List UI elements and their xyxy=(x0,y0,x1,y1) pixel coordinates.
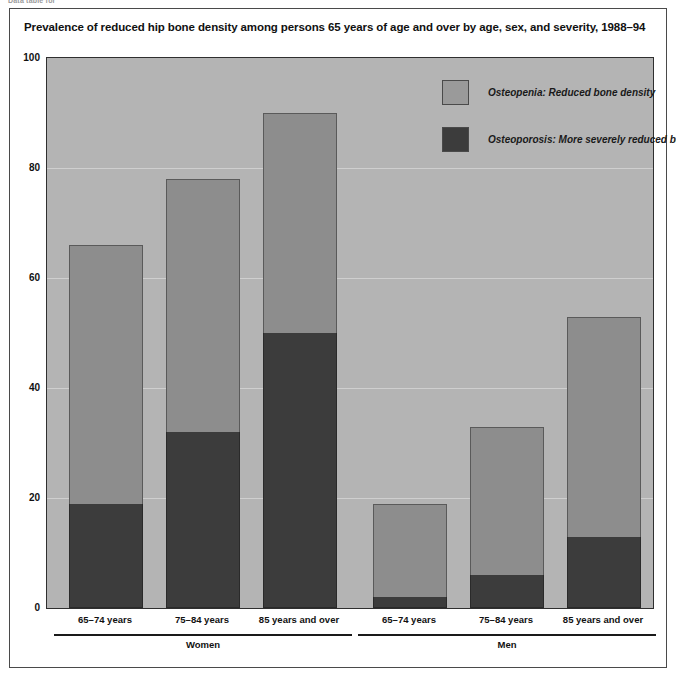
bar-segment-osteoporosis xyxy=(470,575,544,608)
legend-swatch-icon-osteoporosis xyxy=(442,127,469,152)
bar-segment-osteoporosis xyxy=(263,333,337,608)
page-header-scrap: Data table for xyxy=(8,0,56,4)
x-tick-men-85-over: 85 years and over xyxy=(550,614,656,625)
x-tick-women-85-over: 85 years and over xyxy=(246,614,352,625)
bar-segment-osteopenia xyxy=(373,504,447,598)
x-tick-men-65-74: 65–74 years xyxy=(356,614,462,625)
x-tick-women-65-74: 65–74 years xyxy=(52,614,158,625)
legend-item-osteopenia: Osteopenia: Reduced bone density xyxy=(442,80,676,105)
x-axis: 65–74 years 75–84 years 85 years and ove… xyxy=(46,612,654,676)
legend-swatch-icon-osteopenia xyxy=(442,80,469,105)
bar-segment-osteoporosis xyxy=(373,597,447,608)
page-title: Prevalence of reduced hip bone density a… xyxy=(24,21,645,33)
legend: Osteopenia: Reduced bone density Osteopo… xyxy=(442,80,676,174)
bar-segment-osteoporosis xyxy=(567,537,641,609)
bar-men-75-84[interactable] xyxy=(470,427,544,609)
bar-segment-osteopenia xyxy=(263,113,337,333)
x-tick-men-75-84: 75–84 years xyxy=(453,614,559,625)
bar-segment-osteopenia xyxy=(166,179,240,432)
bar-women-75-84[interactable] xyxy=(166,179,240,608)
bar-men-85-over[interactable] xyxy=(567,317,641,609)
group-rule-women xyxy=(54,634,352,636)
bar-segment-osteopenia xyxy=(69,245,143,504)
bar-women-65-74[interactable] xyxy=(69,245,143,608)
legend-label-osteoporosis: Osteoporosis: More severely reduced bone… xyxy=(488,134,676,145)
bar-men-65-74[interactable] xyxy=(373,504,447,609)
group-label-men: Men xyxy=(358,639,656,650)
bar-segment-osteoporosis xyxy=(166,432,240,608)
figure-page: Data table for Prevalence of reduced hip… xyxy=(0,0,676,676)
bar-segment-osteoporosis xyxy=(69,504,143,609)
group-label-women: Women xyxy=(54,639,352,650)
legend-label-osteopenia: Osteopenia: Reduced bone density xyxy=(488,87,655,98)
bar-women-85-over[interactable] xyxy=(263,113,337,608)
plot-area: Osteopenia: Reduced bone density Osteopo… xyxy=(46,57,654,609)
bar-segment-osteopenia xyxy=(567,317,641,537)
bar-segment-osteopenia xyxy=(470,427,544,576)
group-rule-men xyxy=(358,634,656,636)
legend-item-osteoporosis: Osteoporosis: More severely reduced bone… xyxy=(442,127,676,152)
x-tick-women-75-84: 75–84 years xyxy=(149,614,255,625)
